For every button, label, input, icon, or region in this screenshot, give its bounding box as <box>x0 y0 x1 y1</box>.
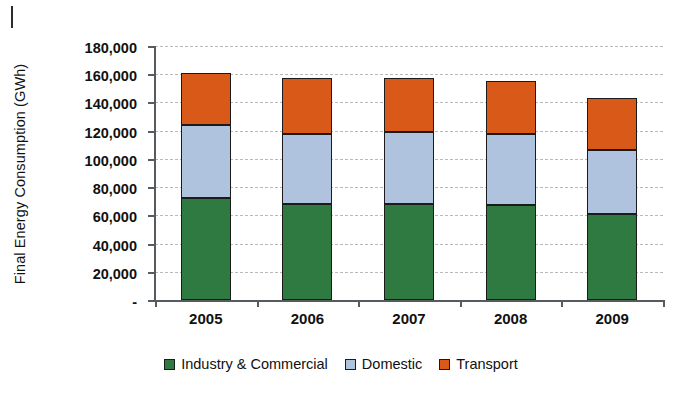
y-axis-tick-label: 20,000 <box>93 266 137 282</box>
bar-segment-domestic[interactable] <box>486 134 536 205</box>
y-axis-tick: 80,000 <box>148 187 156 189</box>
x-axis-tick-label: 2009 <box>596 310 629 327</box>
y-axis-title-text: Final Energy Consumption (GWh) <box>12 64 28 285</box>
x-axis-tick <box>460 300 462 307</box>
bar-segment-transport[interactable] <box>486 81 536 133</box>
legend-item-label: Transport <box>456 356 518 372</box>
y-axis-tick-label: 80,000 <box>93 181 137 197</box>
y-axis-tick-label: 60,000 <box>93 209 137 225</box>
bar-segment-domestic[interactable] <box>282 134 332 205</box>
bar-segment-industry-commercial[interactable] <box>587 214 637 300</box>
y-axis-tick-label: 140,000 <box>85 96 137 112</box>
y-axis-tick: 140,000 <box>148 102 156 104</box>
legend-swatch-industry-commercial-icon <box>164 359 175 370</box>
plot-area: -20,00040,00060,00080,000100,000120,0001… <box>155 46 663 300</box>
legend-item-label: Industry & Commercial <box>181 356 328 372</box>
bar-segment-industry-commercial[interactable] <box>181 198 231 300</box>
chart-legend: Industry & CommercialDomesticTransport <box>0 356 682 372</box>
bar-group[interactable] <box>486 46 536 300</box>
x-axis-line <box>154 300 664 302</box>
bar-segment-transport[interactable] <box>384 78 434 132</box>
x-axis-tick-label: 2008 <box>494 310 527 327</box>
bar-group[interactable] <box>587 46 637 300</box>
legend-item[interactable]: Industry & Commercial <box>164 356 328 372</box>
y-axis-tick-label: 100,000 <box>85 153 137 169</box>
bar-segment-domestic[interactable] <box>384 132 434 204</box>
y-axis-tick-label: 40,000 <box>93 238 137 254</box>
y-axis-tick: 40,000 <box>148 244 156 246</box>
bar-segment-transport[interactable] <box>587 98 637 150</box>
y-axis-title: Final Energy Consumption (GWh) <box>0 40 40 308</box>
x-axis-tick <box>257 300 259 307</box>
legend-swatch-domestic-icon <box>345 359 356 370</box>
x-axis-tick <box>358 300 360 307</box>
y-axis-tick: 160,000 <box>148 74 156 76</box>
legend-item[interactable]: Transport <box>439 356 518 372</box>
bar-segment-transport[interactable] <box>282 78 332 133</box>
bar-segment-industry-commercial[interactable] <box>384 204 434 300</box>
x-axis-tick-label: 2005 <box>189 310 222 327</box>
y-axis-tick-label: 120,000 <box>85 125 137 141</box>
y-axis-tick-label: 160,000 <box>85 68 137 84</box>
x-axis-tick <box>663 300 665 307</box>
y-axis-tick: 180,000 <box>148 46 156 48</box>
y-axis-tick: 20,000 <box>148 272 156 274</box>
y-axis-tick: 100,000 <box>148 159 156 161</box>
legend-item[interactable]: Domestic <box>345 356 422 372</box>
bar-group[interactable] <box>282 46 332 300</box>
bar-segment-transport[interactable] <box>181 73 231 125</box>
legend-item-label: Domestic <box>362 356 422 372</box>
x-axis-tick <box>561 300 563 307</box>
x-axis-tick-label: 2007 <box>392 310 425 327</box>
scan-artifact-mark <box>11 6 13 28</box>
y-axis-tick: 60,000 <box>148 215 156 217</box>
y-axis-tick-label: - <box>132 294 137 310</box>
y-axis-tick: 120,000 <box>148 131 156 133</box>
stacked-bar-chart: Final Energy Consumption (GWh) -20,00040… <box>0 0 682 402</box>
bar-segment-domestic[interactable] <box>181 125 231 198</box>
bar-segment-industry-commercial[interactable] <box>282 204 332 300</box>
x-axis-tick-label: 2006 <box>291 310 324 327</box>
bar-segment-domestic[interactable] <box>587 150 637 214</box>
bar-group[interactable] <box>384 46 434 300</box>
bar-group[interactable] <box>181 46 231 300</box>
y-axis-tick-label: 180,000 <box>85 40 137 56</box>
x-axis-tick <box>155 300 157 307</box>
bar-segment-industry-commercial[interactable] <box>486 205 536 300</box>
legend-swatch-transport-icon <box>439 359 450 370</box>
